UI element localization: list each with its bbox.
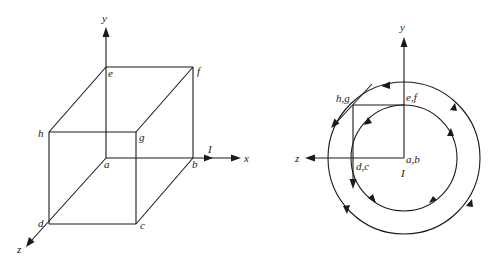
inner-arrow-lower-left-icon: [368, 194, 376, 203]
edge-eh: [49, 67, 106, 132]
inner-arrow-upper-left-icon: [364, 117, 372, 125]
y-axis-label: y: [101, 12, 107, 24]
vertex-c-label: c: [140, 219, 145, 231]
outer-arrow-upper-right-icon: [450, 103, 457, 111]
right-field-figure: y z e,f h,g a,b d,c I: [294, 21, 480, 234]
edge-fg: [136, 67, 193, 132]
outer-arrow-lower-left-icon: [343, 205, 350, 214]
vertex-g-label: g: [139, 131, 145, 143]
current-arrow-icon: [204, 155, 213, 162]
y-axis-arrow-icon: [103, 27, 110, 37]
point-hg-label: h,g: [336, 92, 350, 104]
vertex-e-label: e: [108, 67, 113, 79]
x-axis-label: x: [243, 152, 249, 164]
right-y-axis-label: y: [399, 21, 405, 33]
vertex-h-label: h: [38, 127, 44, 139]
point-dc-label: d,c: [356, 160, 369, 172]
down-arrow-icon: [350, 179, 357, 189]
right-y-axis-arrow-icon: [401, 37, 408, 47]
left-cube-figure: y x z I e f h g a b d c: [16, 12, 249, 255]
vertex-f-label: f: [197, 65, 202, 77]
edge-bc: [136, 158, 193, 224]
vertex-b-label: b: [192, 158, 198, 170]
vertex-d-label: d: [38, 217, 44, 229]
z-axis-label: z: [16, 243, 22, 255]
diagram-canvas: y x z I e f h g a b d c: [0, 0, 495, 266]
current-label: I: [207, 143, 213, 155]
point-ab-label: a,b: [406, 153, 420, 165]
vertex-a-label: a: [104, 158, 110, 170]
point-ef-label: e,f: [406, 91, 419, 103]
right-current-label: I: [400, 167, 406, 179]
right-z-axis-label: z: [294, 152, 300, 164]
right-z-axis-arrow-icon: [305, 155, 315, 162]
x-axis-arrow-icon: [231, 155, 241, 162]
